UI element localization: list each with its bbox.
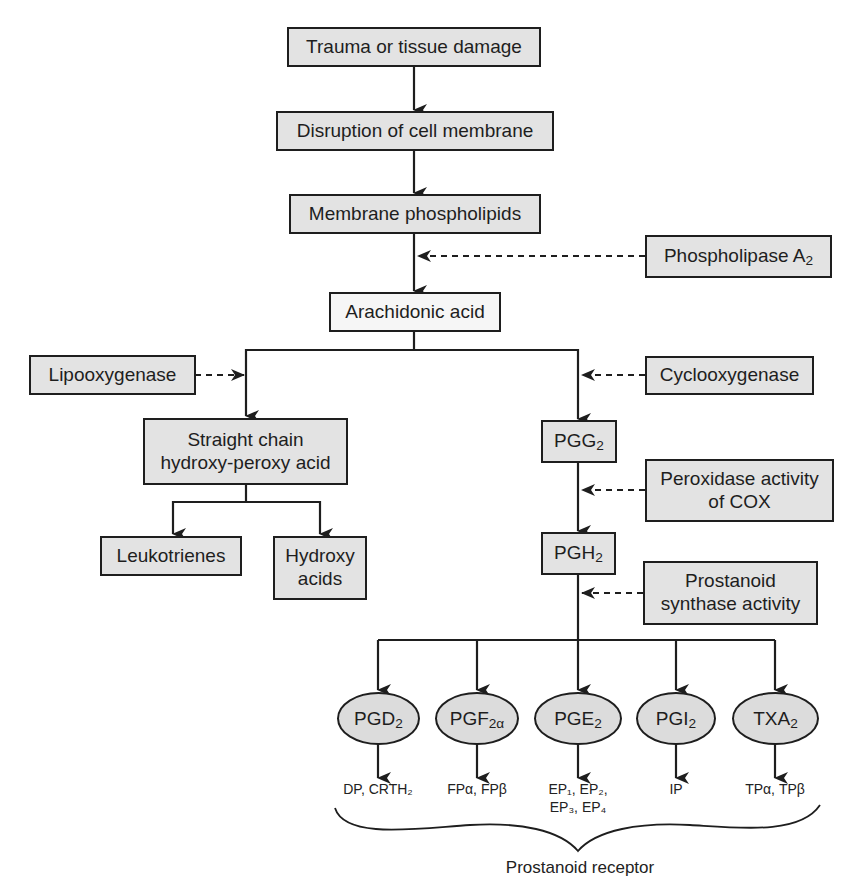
receptor-pgd2: DP, CRTH₂ — [318, 781, 438, 799]
leukotrienes-label: Leukotrienes — [117, 545, 226, 568]
pgd2-ellipse: PGD2 — [337, 692, 420, 745]
pgf2a-label: PGF2α — [450, 708, 505, 730]
phospholipase-box: Phospholipase A2 — [645, 235, 832, 278]
receptor-pgi2: IP — [646, 781, 706, 799]
disruption-label: Disruption of cell membrane — [297, 120, 534, 143]
cyclooxygenase-label: Cyclooxygenase — [660, 364, 799, 387]
trauma-label: Trauma or tissue damage — [306, 36, 522, 59]
trauma-box: Trauma or tissue damage — [287, 27, 541, 67]
pgh2-label: PGH2 — [554, 542, 603, 565]
prostanoid-receptor-caption: Prostanoid receptor — [470, 858, 690, 878]
hpa-label-1: Straight chain — [187, 429, 303, 452]
branch-lox-products — [173, 484, 246, 534]
synthase-label-1: Prostanoid — [685, 570, 776, 593]
pge2-ellipse: PGE2 — [534, 692, 622, 745]
synthase-label-2: synthase activity — [661, 593, 800, 616]
cyclooxygenase-box: Cyclooxygenase — [645, 356, 814, 395]
peroxidase-label-1: Peroxidase activity — [660, 468, 818, 491]
phospholipase-label: Phospholipase A2 — [664, 245, 813, 268]
pge2-label: PGE2 — [554, 708, 602, 730]
pgg2-label: PGG2 — [554, 430, 604, 453]
pgf2a-ellipse: PGF2α — [435, 692, 519, 745]
pgi2-ellipse: PGI2 — [636, 692, 716, 745]
hpa-label-2: hydroxy-peroxy acid — [160, 452, 330, 475]
lipooxygenase-box: Lipooxygenase — [29, 355, 196, 395]
branch-line — [246, 331, 414, 416]
hydroxy-acids-label-1: Hydroxy — [285, 545, 355, 568]
txa2-ellipse: TXA2 — [732, 692, 819, 745]
receptor-pge2-line2: EP₃, EP₄ — [528, 799, 628, 817]
peroxidase-box: Peroxidase activity of COX — [645, 459, 834, 522]
arachidonic-acid-box: Arachidonic acid — [329, 292, 501, 332]
receptor-pgf2a: FPα, FPβ — [427, 781, 527, 799]
branch-line-cox — [414, 350, 578, 419]
txa2-label: TXA2 — [753, 708, 798, 730]
peroxidase-label-2: of COX — [708, 491, 770, 514]
receptor-pge2-line1: EP₁, EP₂, — [528, 781, 628, 799]
pgd2-label: PGD2 — [354, 708, 403, 730]
branch-lox-products-2 — [246, 502, 320, 534]
pgg2-box: PGG2 — [541, 420, 617, 463]
receptor-txa2: TPα, TPβ — [720, 781, 830, 799]
hydroxy-peroxy-acid-box: Straight chain hydroxy-peroxy acid — [143, 418, 348, 485]
disruption-box: Disruption of cell membrane — [276, 111, 554, 151]
arachidonic-label: Arachidonic acid — [345, 301, 484, 324]
phospholipids-box: Membrane phospholipids — [289, 194, 541, 234]
hydroxy-acids-label-2: acids — [298, 568, 342, 591]
pgi2-label: PGI2 — [656, 708, 696, 730]
lipooxygenase-label: Lipooxygenase — [49, 364, 177, 387]
pgh2-box: PGH2 — [541, 532, 616, 575]
synthase-box: Prostanoid synthase activity — [643, 561, 818, 625]
phospholipids-label: Membrane phospholipids — [309, 203, 521, 226]
receptor-pge2: EP₁, EP₂, EP₃, EP₄ — [528, 781, 628, 816]
leukotrienes-box: Leukotrienes — [100, 536, 242, 576]
hydroxy-acids-box: Hydroxy acids — [273, 536, 367, 600]
